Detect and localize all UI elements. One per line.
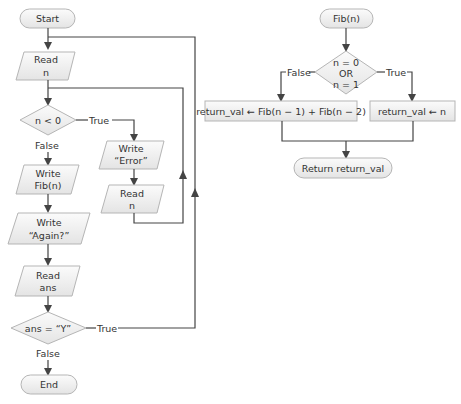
fib-return-label: Return return_val — [302, 163, 384, 174]
write-error-io: Write “Error” — [99, 141, 164, 169]
fib-start-terminal: Fib(n) — [320, 9, 373, 28]
read-ans-label-1: Read — [36, 270, 60, 281]
end-label: End — [40, 379, 58, 390]
up-arrow-icon — [179, 170, 187, 179]
ans-equals-y-decision: ans = “Y” — [11, 312, 86, 344]
fib-recursive-process: return_val ← Fib(n − 1) + Fib(n − 2) — [196, 101, 366, 121]
cond-n-false-label: False — [35, 140, 59, 151]
cond-ans-label: ans = “Y” — [25, 323, 71, 334]
up-arrow-icon — [191, 188, 199, 197]
cond-ans-false-label: False — [36, 348, 60, 359]
cond-n-label: n < 0 — [35, 115, 61, 126]
write-again-label-1: Write — [36, 217, 61, 228]
fib-base-label: return_val ← n — [378, 106, 446, 117]
write-fib-label-2: Fib(n) — [35, 180, 62, 191]
start-label: Start — [36, 13, 59, 24]
read-ans-io: Read ans — [15, 266, 80, 296]
flowchart-canvas: Start Read n n < 0 True False Write “Err… — [0, 0, 461, 404]
write-error-label-2: “Error” — [114, 155, 147, 166]
fib-return-terminal: Return return_val — [294, 158, 392, 178]
fib-base-process: return_val ← n — [370, 101, 455, 121]
fib-false-label: False — [287, 67, 311, 78]
fib-cond-line-3: n = 1 — [333, 79, 359, 90]
n-less-than-zero-decision: n < 0 — [20, 105, 76, 135]
fib-true-label: True — [385, 67, 406, 78]
fib-recursive-label: return_val ← Fib(n − 1) + Fib(n − 2) — [196, 106, 366, 117]
fib-base-case-decision: n = 0 OR n = 1 — [315, 51, 377, 94]
read-ans-label-2: ans — [40, 282, 57, 293]
write-fib-io: Write Fib(n) — [16, 165, 79, 194]
fib-start-label: Fib(n) — [333, 13, 360, 24]
write-again-io: Write “Again?” — [8, 213, 90, 244]
write-error-label-1: Write — [118, 143, 143, 154]
write-fib-label-1: Write — [35, 168, 60, 179]
fib-cond-line-1: n = 0 — [333, 57, 359, 68]
start-terminal: Start — [20, 9, 75, 28]
end-terminal: End — [21, 375, 77, 394]
read-n-io: Read n — [16, 52, 75, 80]
cond-n-true-label: True — [88, 115, 109, 126]
write-again-label-2: “Again?” — [29, 230, 70, 241]
read-n-label-2: n — [43, 67, 49, 78]
fib-cond-line-2: OR — [339, 68, 353, 79]
read-n2-label-2: n — [129, 200, 135, 211]
cond-ans-true-label: True — [96, 323, 117, 334]
read-n-retry-io: Read n — [101, 185, 164, 213]
read-n-label-1: Read — [34, 54, 58, 65]
read-n2-label-1: Read — [120, 188, 144, 199]
